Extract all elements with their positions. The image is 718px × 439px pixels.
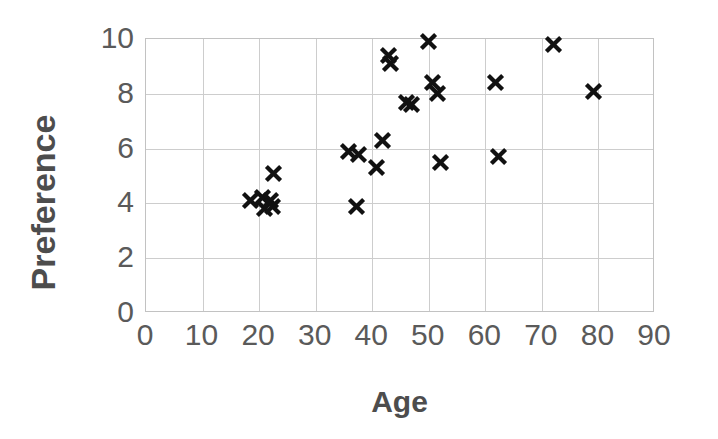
data-point-marker: [349, 145, 368, 164]
data-point-marker: [486, 73, 505, 92]
data-point-marker: [423, 73, 442, 92]
data-point-marker: [347, 197, 366, 216]
y-tick-label: 4: [74, 187, 134, 217]
x-tick-label: 70: [511, 320, 571, 350]
data-point-marker: [241, 191, 260, 210]
data-point-marker: [373, 131, 392, 150]
gridline-horizontal: [146, 94, 653, 95]
data-point-marker: [431, 153, 450, 172]
gridline-vertical: [485, 39, 486, 311]
x-tick-label: 80: [567, 320, 627, 350]
y-axis-title: Preference: [24, 88, 63, 318]
x-tick-label: 0: [115, 320, 175, 350]
x-tick-label: 60: [454, 320, 514, 350]
gridline-vertical: [598, 39, 599, 311]
x-tick-label: 20: [228, 320, 288, 350]
x-tick-label: 50: [398, 320, 458, 350]
x-tick-label: 10: [172, 320, 232, 350]
gridline-horizontal: [146, 149, 653, 150]
x-axis-title: Age: [145, 385, 654, 419]
x-tick-label: 90: [624, 320, 684, 350]
gridline-vertical: [203, 39, 204, 311]
data-point-marker: [253, 188, 272, 207]
y-tick-label: 6: [74, 133, 134, 163]
gridline-horizontal: [146, 203, 653, 204]
data-point-marker: [544, 35, 563, 54]
data-point-marker: [339, 142, 358, 161]
x-tick-label: 30: [285, 320, 345, 350]
gridline-vertical: [372, 39, 373, 311]
y-tick-label: 8: [74, 78, 134, 108]
data-point-marker: [263, 197, 282, 216]
data-point-marker: [584, 82, 603, 101]
data-point-marker: [402, 95, 421, 114]
gridline-vertical: [542, 39, 543, 311]
plot-area: [145, 38, 654, 312]
data-point-marker: [397, 93, 416, 112]
y-tick-label: 2: [74, 242, 134, 272]
gridline-horizontal: [146, 258, 653, 259]
data-point-marker: [255, 199, 274, 218]
x-tick-label: 40: [341, 320, 401, 350]
gridline-vertical: [429, 39, 430, 311]
data-point-marker: [379, 46, 398, 65]
data-point-marker: [261, 191, 280, 210]
gridline-vertical: [259, 39, 260, 311]
y-tick-label: 10: [74, 23, 134, 53]
data-point-marker: [264, 164, 283, 183]
gridline-vertical: [316, 39, 317, 311]
data-point-marker: [489, 147, 508, 166]
data-point-marker: [367, 158, 386, 177]
scatter-chart: Preference Age 0246810 01020304050607080…: [0, 0, 718, 439]
data-point-marker: [381, 54, 400, 73]
